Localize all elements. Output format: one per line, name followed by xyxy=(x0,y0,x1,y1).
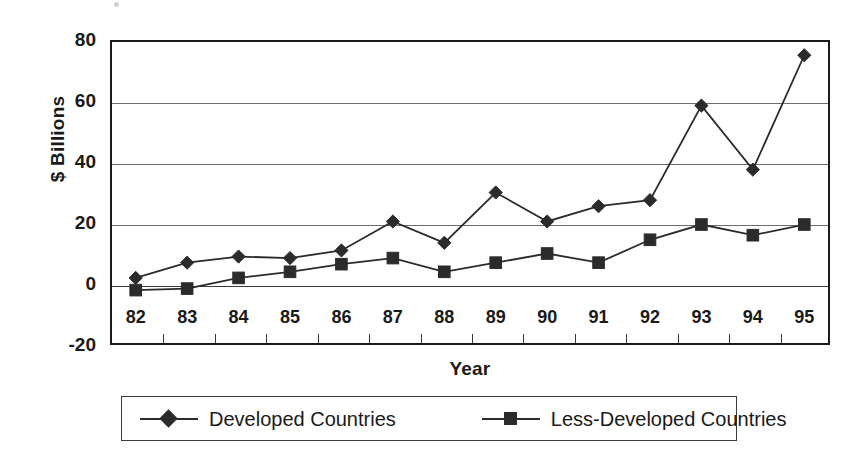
zero-axis-line xyxy=(112,286,828,287)
x-axis-tick-label: 85 xyxy=(268,308,312,326)
x-axis-tick xyxy=(523,334,524,343)
x-axis-tick-label: 93 xyxy=(679,308,723,326)
x-axis-tick xyxy=(215,334,216,343)
x-axis-tick xyxy=(266,334,267,343)
y-axis-tick-label: 40 xyxy=(42,152,96,171)
x-axis-tick xyxy=(421,334,422,343)
legend-marker-square-icon xyxy=(482,409,540,429)
y-axis-tick-label: -20 xyxy=(42,335,96,354)
x-axis-tick xyxy=(575,334,576,343)
y-axis-tick-label: 80 xyxy=(42,30,96,49)
legend-label: Less-Developed Countries xyxy=(551,409,787,429)
x-axis-tick-label: 91 xyxy=(577,308,621,326)
x-axis-tick-label: 84 xyxy=(217,308,261,326)
y-axis-tick-label: 60 xyxy=(42,91,96,110)
legend-entry: Less-Developed Countries xyxy=(482,397,787,440)
gridline xyxy=(112,225,828,226)
x-axis-tick xyxy=(781,334,782,343)
x-axis-title: Year xyxy=(110,358,830,380)
x-axis-tick-label: 92 xyxy=(628,308,672,326)
x-axis-tick-label: 83 xyxy=(165,308,209,326)
x-axis-tick xyxy=(472,334,473,343)
x-axis-tick xyxy=(369,334,370,343)
x-axis-tick-label: 87 xyxy=(371,308,415,326)
gridline xyxy=(112,103,828,104)
legend-label: Developed Countries xyxy=(209,409,396,429)
legend-marker-diamond-icon xyxy=(140,409,198,429)
x-axis-tick-label: 95 xyxy=(782,308,826,326)
x-axis-tick xyxy=(163,334,164,343)
gridline xyxy=(112,164,828,165)
line-chart: $ Billions 806040200-20 8283848586878889… xyxy=(0,0,854,467)
chart-legend: Developed CountriesLess-Developed Countr… xyxy=(121,396,737,441)
x-axis-tick-label: 89 xyxy=(474,308,518,326)
y-axis-tick-labels: 806040200-20 xyxy=(34,0,96,467)
x-axis-tick xyxy=(318,334,319,343)
y-axis-tick-label: 20 xyxy=(42,213,96,232)
scan-artifact-speck xyxy=(114,2,119,7)
y-axis-tick-label: 0 xyxy=(42,274,96,293)
x-axis-tick xyxy=(626,334,627,343)
x-axis-tick xyxy=(729,334,730,343)
x-axis-tick xyxy=(678,334,679,343)
x-axis-tick-label: 88 xyxy=(422,308,466,326)
x-axis-tick-label: 90 xyxy=(525,308,569,326)
legend-entry: Developed Countries xyxy=(140,397,396,440)
plot-area xyxy=(110,40,830,345)
x-axis-tick-label: 82 xyxy=(114,308,158,326)
x-axis-tick-label: 94 xyxy=(731,308,775,326)
x-axis-tick-label: 86 xyxy=(319,308,363,326)
